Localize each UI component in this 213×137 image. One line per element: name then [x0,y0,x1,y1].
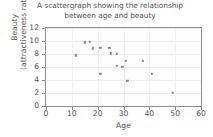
y-axis-tick-label: 4 [17,76,39,84]
x-axis-tick-label: 30 [113,110,135,118]
y-axis-tick-mark [42,93,45,94]
y-axis-label-line-1: Beauty [10,0,19,76]
y-axis-tick-mark [42,54,45,55]
y-axis-label: Beauty (attractiveness rating) [10,0,29,76]
x-axis-tick-label: 20 [87,110,109,118]
gridline-vertical [72,28,73,106]
y-axis-tick-label: 0 [17,102,39,110]
chart-title: A scattergraph showing the relationship … [26,1,194,20]
scatterplot-chart: A scattergraph showing the relationship … [0,0,213,137]
x-axis-tick-mark [149,107,150,110]
y-axis-tick-mark [42,41,45,42]
x-axis-tick-mark [175,107,176,110]
data-point [84,41,86,43]
x-axis-tick-mark [72,107,73,110]
data-point [151,72,153,74]
data-point [142,59,144,61]
x-axis-tick-mark [201,107,202,110]
x-axis-tick-label: 0 [35,110,57,118]
x-axis-tick-mark [46,107,47,110]
x-axis-tick-mark [124,107,125,110]
y-axis-tick-marks [42,27,45,107]
data-point [108,46,110,48]
data-point [171,92,173,94]
chart-title-line-2: between age and beauty [26,11,194,21]
y-axis-tick-mark [42,67,45,68]
x-axis-tick-labels: 0102030405060 [45,110,202,120]
x-axis-tick-label: 60 [190,110,212,118]
data-point [91,47,93,49]
data-point [109,52,111,54]
plot-area [45,27,202,107]
y-axis-tick-mark [42,80,45,81]
data-point [126,79,128,81]
x-axis-tick-label: 40 [138,110,160,118]
x-axis-label: Age [45,121,202,130]
x-axis-tick-marks [45,107,202,110]
data-point [75,54,77,56]
gridline-vertical [98,28,99,106]
y-axis-tick-label: 2 [17,89,39,97]
chart-title-line-1: A scattergraph showing the relationship [26,1,194,11]
x-axis-tick-mark [98,107,99,110]
data-point [116,53,118,55]
gridline-vertical [124,28,125,106]
x-axis-tick-label: 10 [61,110,83,118]
data-point [121,66,123,68]
data-point [116,64,118,66]
data-point [99,46,101,48]
x-axis-tick-label: 50 [164,110,186,118]
gridline-vertical [149,28,150,106]
y-axis-label-line-2: (attractiveness rating) [19,0,28,76]
data-point [89,40,91,42]
y-axis-tick-mark [42,28,45,29]
data-point [99,72,101,74]
data-point [125,59,127,61]
gridline-vertical [175,28,176,106]
